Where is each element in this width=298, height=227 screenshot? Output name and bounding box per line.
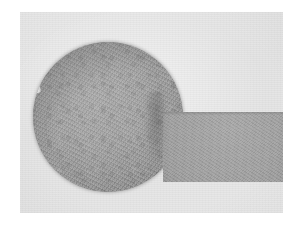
contact-junction-shading [138, 92, 164, 162]
secondary-structure-dark-rim [163, 112, 283, 182]
micrograph-field [20, 12, 283, 213]
secondary-structure-top-edge [163, 112, 283, 115]
micrograph-page [0, 0, 298, 227]
secondary-structure-specimen [163, 112, 283, 182]
